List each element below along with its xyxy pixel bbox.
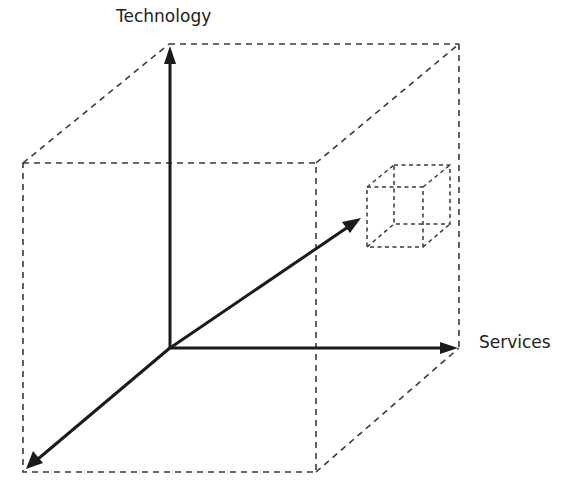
technology-arrowhead-icon (164, 46, 176, 64)
small-cube-back-face (394, 165, 450, 224)
depth-axis-backward (38, 347, 171, 459)
large-cube-edge-top-right (316, 44, 459, 163)
small-cube (367, 165, 450, 247)
depth-arrowhead-lower-icon (26, 451, 43, 469)
depth-axis-forward (170, 227, 348, 348)
large-cube-edge-top-left (23, 44, 169, 163)
large-cube-edge-bottom-right (316, 348, 459, 472)
technology-axis-label: Technology (116, 6, 211, 26)
small-cube-edges (367, 165, 450, 247)
small-cube-front-face (367, 187, 423, 247)
services-arrowhead-icon (440, 342, 458, 354)
large-cube (23, 44, 459, 472)
services-axis-label: Services (479, 332, 551, 352)
cube-axis-diagram (0, 0, 561, 491)
